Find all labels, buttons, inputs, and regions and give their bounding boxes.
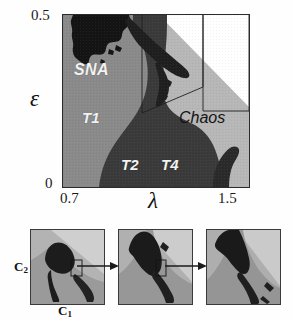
main-phase-diagram-panel: SNA T1 T2 T4 Chaos bbox=[62, 14, 250, 188]
region-label-sna: SNA bbox=[74, 61, 109, 79]
inset-y-axis-letter: C bbox=[14, 259, 23, 274]
attractor-plot-3 bbox=[207, 230, 280, 304]
y-axis-name-epsilon: ε bbox=[30, 86, 39, 112]
arrow-inset2-to-inset3 bbox=[165, 258, 207, 274]
y-axis-min-tick-label: 0 bbox=[45, 176, 53, 191]
x-axis-min-tick-label: 0.7 bbox=[60, 191, 79, 206]
inset-x-axis-label: C1 bbox=[58, 303, 72, 319]
region-label-t4: T4 bbox=[161, 156, 179, 173]
x-axis-max-tick-label: 1.5 bbox=[218, 191, 237, 206]
figure-root: SNA T1 T2 T4 Chaos 0.5 0 0.7 1.5 ε λ bbox=[0, 0, 293, 320]
halftone-overlay bbox=[63, 15, 249, 187]
region-label-t2: T2 bbox=[121, 156, 139, 173]
y-axis-max-tick-label: 0.5 bbox=[31, 8, 50, 23]
region-label-t1: T1 bbox=[82, 109, 100, 126]
phase-diagram-plot bbox=[63, 15, 249, 187]
inset-y-axis-subscript: 2 bbox=[23, 265, 28, 275]
inset-x-axis-subscript: 1 bbox=[67, 309, 72, 319]
x-axis-name-lambda: λ bbox=[148, 188, 158, 214]
inset-x-axis-letter: C bbox=[58, 303, 67, 318]
inset-y-axis-label: C2 bbox=[14, 259, 28, 275]
region-fills bbox=[63, 15, 249, 187]
inset-panel-3 bbox=[206, 229, 281, 305]
region-label-chaos: Chaos bbox=[179, 109, 225, 127]
arrow-inset1-to-inset2 bbox=[77, 258, 119, 274]
